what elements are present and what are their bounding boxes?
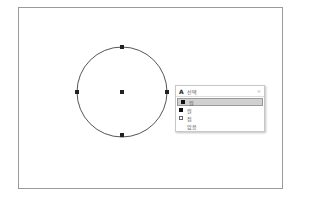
- popup-title: 선택: [187, 88, 197, 95]
- filled-square-icon: [179, 108, 183, 112]
- grip-right[interactable]: [165, 90, 169, 94]
- filled-square-icon: [181, 100, 185, 104]
- list-item[interactable]: 없음: [176, 122, 264, 130]
- list-item[interactable]: 원: [177, 98, 263, 106]
- close-icon[interactable]: ×: [257, 88, 261, 94]
- grip-center[interactable]: [120, 90, 124, 94]
- selection-icon: A: [179, 88, 184, 95]
- list-item[interactable]: 원: [176, 106, 264, 114]
- popup-header: A 선택 ×: [176, 86, 264, 97]
- selection-cycling-popup: A 선택 × 원 원 점 없음: [175, 85, 265, 132]
- grip-top[interactable]: [120, 45, 124, 49]
- grip-bottom[interactable]: [120, 133, 124, 137]
- item-label: 원: [189, 99, 194, 106]
- item-label: 원: [187, 107, 192, 114]
- hollow-square-icon: [179, 116, 183, 120]
- blank-icon: [179, 124, 183, 128]
- grip-left[interactable]: [75, 90, 79, 94]
- list-item[interactable]: 점: [176, 114, 264, 122]
- item-label: 점: [187, 115, 192, 122]
- item-label: 없음: [187, 123, 197, 130]
